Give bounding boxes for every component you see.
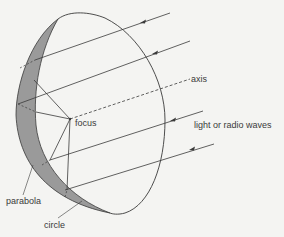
focus-label: focus: [75, 119, 97, 128]
parabolic-reflector-diagram: axis focus light or radio waves parabola…: [0, 0, 284, 237]
shaded-rim: [16, 19, 110, 213]
axis-line: [70, 79, 190, 119]
circle-label: circle: [44, 221, 65, 230]
focus-point: [69, 118, 71, 120]
diagram-canvas: [0, 0, 284, 237]
axis-label: axis: [191, 75, 207, 84]
circle-rim: [58, 13, 165, 214]
parabola-label: parabola: [6, 197, 41, 206]
waves-label: light or radio waves: [194, 121, 272, 130]
ray-arrowheads: [140, 20, 195, 151]
